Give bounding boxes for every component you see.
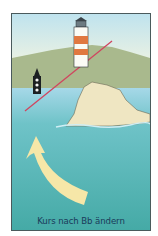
caption: Kurs nach Bb ändern — [12, 216, 150, 226]
lighthouse-icon — [74, 17, 88, 67]
diagram-frame: Kurs nach Bb ändern — [11, 13, 151, 231]
navigation-scene — [12, 14, 150, 230]
